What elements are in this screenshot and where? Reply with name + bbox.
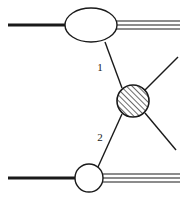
bottom-outgoing-lines — [102, 174, 180, 182]
top-outgoing-lines — [116, 21, 180, 29]
feynman-diagram-canvas: 1 2 — [0, 0, 185, 203]
vertex-outgoing-lower-line — [145, 113, 176, 150]
vertex-outgoing-upper-line — [145, 57, 178, 90]
propagator-label-1: 1 — [97, 61, 103, 73]
hatched-vertex-blob — [117, 85, 149, 117]
propagator-label-2: 2 — [97, 131, 103, 143]
bottom-blob — [75, 164, 103, 192]
top-blob — [65, 8, 117, 42]
diagram-svg: 1 2 — [0, 0, 185, 203]
propagator-line-1 — [105, 42, 122, 88]
